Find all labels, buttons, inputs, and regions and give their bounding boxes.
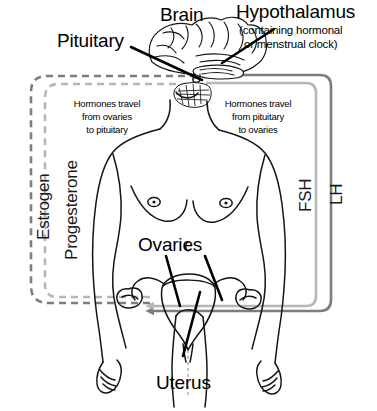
note-left-line3: to pituitary bbox=[57, 125, 157, 136]
note-left-line2: from ovaries bbox=[57, 112, 157, 123]
note-right-line3: to ovaries bbox=[208, 125, 308, 136]
label-hypothalamus-sub-line1: (containing hormonal bbox=[239, 24, 342, 37]
label-lh: LH bbox=[327, 184, 346, 205]
note-right-line1: Hormones travel bbox=[208, 99, 308, 110]
label-brain: Brain bbox=[160, 4, 203, 25]
label-uterus: Uterus bbox=[156, 372, 211, 393]
label-pituitary: Pituitary bbox=[57, 30, 124, 51]
anatomy-illustration bbox=[0, 0, 377, 411]
label-fsh: FSH bbox=[296, 179, 315, 212]
label-progesterone: Progesterone bbox=[62, 160, 81, 260]
note-left-line1: Hormones travel bbox=[57, 99, 157, 110]
label-hypothalamus: Hypothalamus bbox=[236, 1, 355, 22]
uterus-pointer bbox=[183, 292, 200, 356]
note-right-line2: from pituitary bbox=[208, 112, 308, 123]
label-hypothalamus-sub-line2: or menstrual clock) bbox=[244, 38, 337, 51]
reproductive-organs bbox=[117, 274, 261, 362]
label-ovaries: Ovaries bbox=[138, 234, 202, 255]
label-estrogen: Estrogen bbox=[34, 174, 53, 240]
diagram-canvas: Brain Pituitary Hypothalamus (containing… bbox=[0, 0, 377, 411]
